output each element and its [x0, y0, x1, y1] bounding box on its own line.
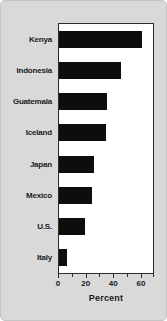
x-tick-label: 40	[109, 279, 118, 288]
bar-mexico	[59, 187, 92, 204]
x-tick-minor	[127, 274, 128, 277]
x-tick-minor	[153, 274, 154, 277]
category-label: Iceland	[1, 117, 55, 148]
x-tick-major	[58, 274, 59, 278]
bar-japan	[59, 156, 94, 173]
x-tick-major	[86, 274, 87, 278]
bar-row	[59, 117, 153, 148]
category-label: Italy	[1, 242, 55, 273]
bar-indonesia	[59, 62, 121, 79]
bar-row	[59, 211, 153, 242]
bar-italy	[59, 249, 67, 266]
x-tick-label: 0	[56, 279, 60, 288]
chart-figure: KenyaIndonesiaGuatemalaIcelandJapanMexic…	[0, 0, 167, 321]
bar-guatemala	[59, 93, 107, 110]
bar-row	[59, 242, 153, 273]
category-label: U.S.	[1, 211, 55, 242]
bar-series	[59, 24, 153, 273]
x-tick-minor	[99, 274, 100, 277]
x-axis-title: Percent	[58, 293, 154, 303]
x-axis-tick-labels: 0204060	[1, 279, 167, 291]
category-label: Guatemala	[1, 86, 55, 117]
bar-row	[59, 24, 153, 55]
x-tick-minor	[72, 274, 73, 277]
x-tick-label: 60	[136, 279, 145, 288]
category-label: Japan	[1, 149, 55, 180]
x-tick-label: 20	[81, 279, 90, 288]
bar-iceland	[59, 124, 106, 141]
category-label: Indonesia	[1, 55, 55, 86]
category-label: Mexico	[1, 180, 55, 211]
bar-row	[59, 55, 153, 86]
bar-row	[59, 149, 153, 180]
bar-row	[59, 180, 153, 211]
bar-kenya	[59, 31, 142, 48]
x-tick-major	[113, 274, 114, 278]
x-tick-major	[141, 274, 142, 278]
y-axis-category-labels: KenyaIndonesiaGuatemalaIcelandJapanMexic…	[1, 24, 55, 273]
category-label: Kenya	[1, 24, 55, 55]
bar-u-s	[59, 218, 85, 235]
bar-row	[59, 86, 153, 117]
